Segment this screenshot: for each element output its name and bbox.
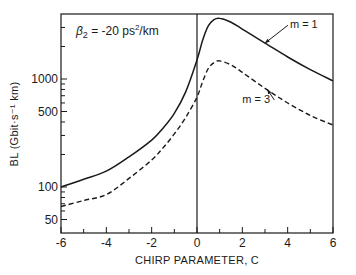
- y-axis-ticks: 501005001000: [31, 27, 67, 226]
- y-tick-label: 1000: [31, 72, 58, 86]
- x-axis-label: CHIRP PARAMETER, C: [135, 254, 259, 266]
- curve-annotations: m = 1m = 3: [242, 18, 317, 105]
- y-tick-label: 100: [38, 180, 58, 194]
- x-tick-label: 6: [330, 236, 337, 250]
- y-tick-label: 500: [38, 105, 58, 119]
- x-tick-label: 0: [194, 236, 201, 250]
- plot-frame: [61, 14, 333, 233]
- annotation-label: m = 3: [242, 93, 270, 105]
- annotation-label: m = 1: [290, 18, 318, 30]
- chart-title: β2 = -20 ps2/km: [75, 23, 159, 40]
- y-tick-label: 50: [45, 213, 59, 227]
- x-tick-label: 4: [284, 236, 291, 250]
- x-tick-label: -2: [146, 236, 157, 250]
- x-tick-label: -4: [101, 236, 112, 250]
- chirp-bl-chart: β2 = -20 ps2/km -6-4-20246 501005001000 …: [0, 0, 356, 275]
- x-tick-label: 2: [239, 236, 246, 250]
- y-axis-label: BL (Gbit·s⁻¹ km): [8, 82, 20, 167]
- x-tick-label: -6: [56, 236, 67, 250]
- x-axis-ticks: -6-4-20246: [56, 227, 337, 250]
